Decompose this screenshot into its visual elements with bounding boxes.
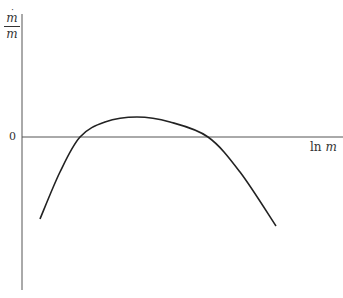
chart-canvas xyxy=(0,0,343,298)
x-axis-label: ln m xyxy=(310,140,337,154)
x-label-ln: ln xyxy=(310,140,325,154)
y-label-numerator: ˙ m xyxy=(4,12,20,25)
time-derivative-dot: ˙ xyxy=(10,6,15,19)
y-tick-zero: 0 xyxy=(9,130,16,143)
y-label-denominator: m xyxy=(6,27,17,41)
y-axis-label: ˙ m m xyxy=(4,12,20,41)
x-label-m: m xyxy=(325,140,336,154)
growth-rate-curve xyxy=(40,117,276,226)
